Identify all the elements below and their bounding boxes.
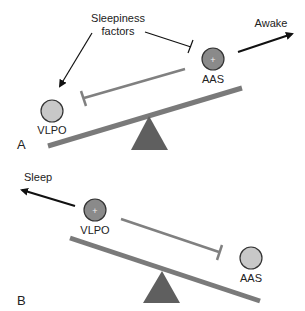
fulcrum-b (143, 271, 180, 303)
panel-b: Sleep + VLPO AAS B (17, 171, 262, 308)
sleep-label: Sleep (24, 171, 52, 183)
vlpo-label-b: VLPO (80, 224, 110, 236)
aas-label-a: AAS (202, 73, 224, 85)
awake-arrow (238, 34, 292, 52)
sleepiness-to-vlpo-arrow (60, 33, 92, 86)
panel-label-a: A (17, 137, 26, 152)
sleep-wake-seesaw-diagram: Sleepiness factors Awake VLPO + AAS A Sl… (0, 0, 305, 311)
panel-a: Sleepiness factors Awake VLPO + AAS A (17, 12, 292, 152)
vlpo-plus-b: + (92, 206, 97, 216)
vlpo-inhibits-aas (121, 219, 219, 252)
aas-plus-a: + (210, 55, 215, 65)
vlpo-label-a: VLPO (37, 124, 67, 136)
vlpo-node-a (41, 100, 63, 122)
aas-label-b: AAS (240, 272, 262, 284)
aas-node-b (240, 247, 262, 269)
aas-inhibits-vlpo (84, 69, 185, 98)
awake-label: Awake (255, 17, 288, 29)
sleepiness-factors-label-2: factors (101, 25, 135, 37)
sleepiness-factors-label: Sleepiness (91, 12, 145, 24)
panel-label-b: B (17, 293, 26, 308)
sleep-arrow (22, 190, 75, 206)
sleepiness-inhibits-aas (145, 32, 191, 47)
